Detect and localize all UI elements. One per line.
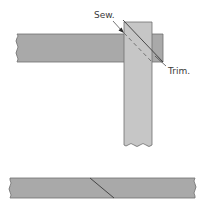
joining-strips-diagram: Sew. Trim. [0, 0, 211, 210]
sew-label: Sew. [94, 10, 115, 20]
vertical-strip [124, 22, 152, 147]
trim-label: Trim. [167, 66, 190, 76]
